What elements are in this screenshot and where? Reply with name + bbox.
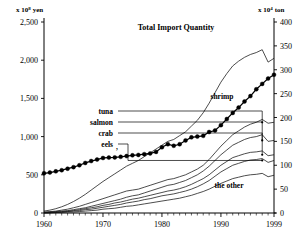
left-unit-suffix: yen bbox=[33, 6, 44, 14]
right-unit-suffix: ton bbox=[275, 6, 285, 14]
annotation-total-import-quantity: Total Import Quantity bbox=[138, 23, 215, 32]
x-axis-tick-label: 1970 bbox=[95, 220, 111, 229]
chart-svg: x 108yen x 104ton 05001,0001,5002,0002,5… bbox=[0, 0, 306, 244]
legend-label-crab: crab bbox=[98, 129, 113, 138]
total-import-quantity-marker bbox=[83, 161, 87, 165]
total-import-quantity-marker bbox=[142, 152, 146, 156]
left-axis-tick-label: 0 bbox=[34, 209, 38, 218]
x-axis-tick-label: 1999 bbox=[266, 220, 282, 229]
total-import-quantity-marker bbox=[54, 169, 58, 173]
legend-label-salmon: salmon bbox=[90, 118, 114, 127]
total-import-quantity-marker bbox=[195, 135, 199, 139]
chart-title: Total Import Quantity bbox=[138, 23, 215, 32]
total-import-quantity-marker bbox=[248, 94, 252, 98]
total-import-quantity-marker bbox=[237, 106, 241, 110]
eels-leader-comma: , bbox=[116, 142, 118, 151]
total-import-quantity-marker bbox=[71, 165, 75, 169]
total-import-quantity-marker bbox=[160, 145, 164, 149]
total-import-quantity-marker bbox=[95, 158, 99, 162]
left-unit-exponent: 8 bbox=[28, 6, 31, 11]
right-axis-tick-label: 250 bbox=[280, 90, 292, 99]
total-import-quantity-marker bbox=[266, 77, 270, 81]
left-axis-unit-label: x 108yen bbox=[16, 6, 43, 15]
total-import-quantity-marker bbox=[189, 135, 193, 139]
legend-leader-eels bbox=[118, 144, 262, 160]
left-axis-tick-label: 1,500 bbox=[20, 94, 38, 103]
total-import-quantity-marker bbox=[184, 138, 188, 142]
total-import-quantity-marker bbox=[272, 73, 276, 77]
total-import-quantity-marker bbox=[178, 142, 182, 146]
left-axis-tick-label: 2,500 bbox=[20, 18, 38, 27]
right-axis-tick-label: 200 bbox=[280, 114, 292, 123]
total-import-quantity-marker bbox=[172, 144, 176, 148]
total-import-quantity-marker bbox=[89, 159, 93, 163]
legend-endpoint-eels bbox=[261, 159, 263, 161]
left-unit-base: x 10 bbox=[16, 6, 29, 14]
total-import-quantity-marker bbox=[66, 167, 70, 171]
total-import-quantity-marker bbox=[260, 82, 264, 86]
left-axis-tick-label: 2,000 bbox=[20, 56, 38, 65]
right-axis-unit-label: x 104ton bbox=[258, 6, 285, 15]
legend-label-eels: eels bbox=[101, 140, 113, 149]
total-import-quantity-marker bbox=[136, 153, 140, 157]
total-import-quantity-marker bbox=[148, 151, 152, 155]
right-axis-tick-label: 350 bbox=[280, 42, 292, 51]
right-axis-tick-label: 0 bbox=[280, 209, 284, 218]
legend-leader-tuna bbox=[118, 111, 262, 122]
right-axis-tick-label: 100 bbox=[280, 161, 292, 170]
total-import-quantity-line bbox=[44, 75, 274, 174]
total-import-quantity-marker bbox=[254, 87, 258, 91]
total-import-quantity-marker bbox=[77, 163, 81, 167]
legend-label-tuna: tuna bbox=[98, 107, 113, 116]
x-axis-tick-label: 1980 bbox=[154, 220, 170, 229]
total-import-quantity-marker bbox=[225, 117, 229, 121]
x-axis-tick-label: 1990 bbox=[213, 220, 229, 229]
curve-salmon bbox=[44, 135, 274, 213]
left-axis-tick-label: 500 bbox=[26, 171, 38, 180]
total-import-quantity-marker bbox=[107, 156, 111, 160]
total-import-quantity-marker bbox=[60, 168, 64, 172]
total-import-quantity-marker bbox=[113, 155, 117, 159]
right-axis-tick-label: 300 bbox=[280, 66, 292, 75]
right-axis-tick-label: 50 bbox=[280, 185, 288, 194]
total-import-quantity-marker bbox=[48, 171, 52, 175]
total-import-quantity-marker bbox=[201, 134, 205, 138]
total-import-quantity-series bbox=[42, 73, 276, 176]
right-unit-base: x 10 bbox=[258, 6, 271, 14]
total-import-quantity-marker bbox=[231, 111, 235, 115]
left-axis-tick-label: 1,000 bbox=[20, 133, 38, 142]
total-import-quantity-marker bbox=[42, 171, 46, 175]
total-import-quantity-marker bbox=[119, 155, 123, 159]
legend-endpoint-crab bbox=[261, 154, 263, 156]
total-import-quantity-marker bbox=[130, 153, 134, 157]
total-import-quantity-marker bbox=[219, 123, 223, 127]
x-axis-tick-label: 1960 bbox=[36, 220, 52, 229]
total-import-quantity-marker bbox=[213, 128, 217, 132]
series-label-the-other: the other bbox=[215, 181, 245, 190]
right-unit-exponent: 4 bbox=[270, 6, 273, 11]
right-axis-tick-label: 150 bbox=[280, 137, 292, 146]
right-axis-tick-label: 400 bbox=[280, 18, 292, 27]
total-import-quantity-marker bbox=[207, 130, 211, 134]
legend-labels: tuna salmon crab eels bbox=[90, 107, 114, 149]
annotation-the-other: the other bbox=[215, 181, 245, 190]
total-import-quantity-marker bbox=[154, 150, 158, 154]
total-import-quantity-marker bbox=[101, 156, 105, 160]
series-label-shrimp: shrimp bbox=[211, 92, 234, 101]
total-import-quantity-marker bbox=[243, 99, 247, 103]
annotation-shrimp: shrimp bbox=[211, 92, 234, 101]
svg-text:x 104ton: x 104ton bbox=[258, 6, 285, 15]
total-import-quantity-marker bbox=[166, 142, 170, 146]
svg-text:x 108yen: x 108yen bbox=[16, 6, 43, 15]
chart-figure: x 108yen x 104ton 05001,0001,5002,0002,5… bbox=[0, 0, 306, 244]
